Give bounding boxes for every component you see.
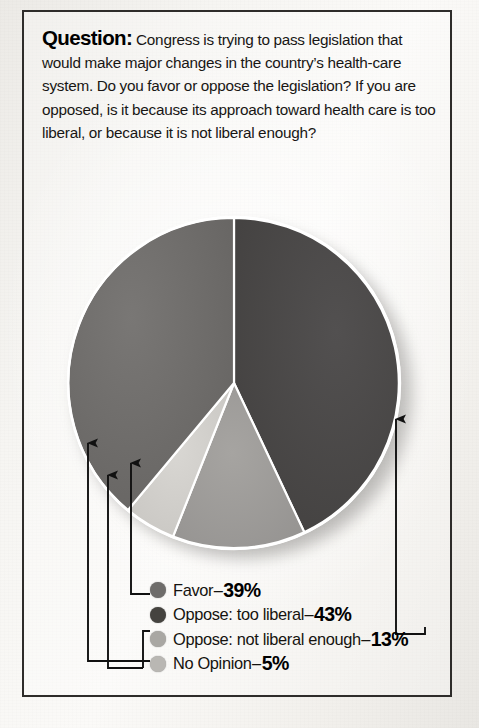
legend-value-favor: 39%	[223, 579, 260, 602]
legend-label-no-opinion: No Opinion	[173, 654, 252, 673]
legend-swatch-oppose-too-liberal	[150, 607, 166, 623]
legend-dash-oppose-too-liberal: –	[304, 605, 314, 624]
legend-label-favor: Favor	[173, 581, 213, 600]
legend-value-oppose-too-liberal: 43%	[314, 603, 351, 626]
legend: Favor – 39% Oppose: too liberal – 43% Op…	[150, 578, 408, 676]
legend-swatch-oppose-not-liberal-enough	[150, 631, 166, 647]
question-paragraph: Question: Congress is trying to pass leg…	[42, 26, 442, 144]
legend-item-oppose-too-liberal[interactable]: Oppose: too liberal – 43%	[150, 603, 408, 628]
question-block: Question: Congress is trying to pass leg…	[42, 26, 442, 144]
pie-chart	[52, 200, 422, 570]
legend-item-no-opinion[interactable]: No Opinion – 5%	[150, 652, 408, 677]
legend-item-oppose-not-liberal-enough[interactable]: Oppose: not liberal enough – 13%	[150, 627, 408, 652]
poll-graphic-page: Question: Congress is trying to pass leg…	[0, 0, 479, 728]
legend-label-oppose-not-liberal-enough: Oppose: not liberal enough	[173, 630, 361, 649]
legend-swatch-no-opinion	[150, 656, 166, 672]
pie-chart-svg	[52, 200, 422, 570]
legend-item-favor[interactable]: Favor – 39%	[150, 578, 408, 603]
legend-label-oppose-too-liberal: Oppose: too liberal	[173, 605, 304, 624]
legend-value-oppose-not-liberal-enough: 13%	[371, 628, 408, 651]
legend-value-no-opinion: 5%	[262, 652, 289, 675]
legend-dash-no-opinion: –	[252, 654, 262, 673]
question-label: Question:	[42, 26, 132, 49]
legend-dash-oppose-not-liberal-enough: –	[361, 630, 371, 649]
legend-dash-favor: –	[213, 581, 223, 600]
legend-swatch-favor	[150, 582, 166, 598]
